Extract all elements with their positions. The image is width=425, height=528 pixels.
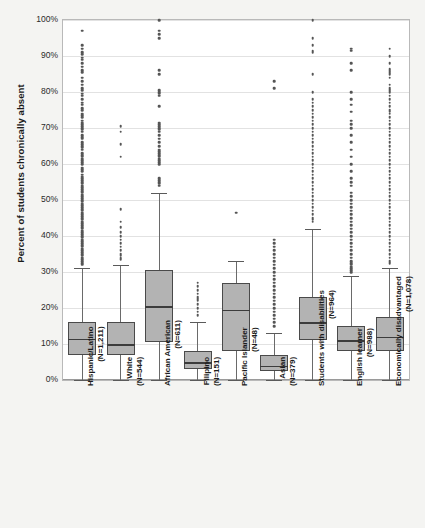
x-axis-labels: Hispanic/Latino(N=1,211)White(N=544)Afri… xyxy=(62,386,410,526)
outlier-point xyxy=(312,44,315,47)
outlier-point xyxy=(81,94,84,97)
outlier-point xyxy=(388,224,391,227)
outlier-point xyxy=(81,71,84,74)
outlier-point xyxy=(388,156,391,159)
outlier-point xyxy=(350,134,353,137)
whisker-cap xyxy=(266,333,282,334)
outlier-point xyxy=(350,202,353,205)
outlier-point xyxy=(388,238,391,241)
outlier-point xyxy=(81,53,84,56)
y-tick-label: 50% xyxy=(24,194,58,204)
x-tick-label: African American(N=611) xyxy=(163,320,183,386)
outlier-point xyxy=(273,238,276,241)
x-tick-label: English learner(N=988) xyxy=(355,328,375,386)
outlier-point xyxy=(312,148,315,151)
outlier-point xyxy=(158,141,161,144)
outlier-point xyxy=(388,181,391,184)
outlier-point xyxy=(273,289,276,292)
outlier-point xyxy=(312,134,315,137)
outlier-point xyxy=(273,296,276,299)
outlier-point xyxy=(388,256,391,259)
outlier-point xyxy=(119,156,122,159)
outlier-point xyxy=(350,69,353,72)
outlier-point xyxy=(119,238,122,241)
gridline xyxy=(63,200,409,201)
outlier-point xyxy=(312,163,315,166)
outlier-point xyxy=(388,94,391,97)
outlier-point xyxy=(81,66,84,69)
outlier-point xyxy=(81,62,84,65)
outlier-point xyxy=(196,292,199,295)
outlier-point xyxy=(312,112,315,115)
outlier-point xyxy=(388,127,391,130)
outlier-point xyxy=(312,170,315,173)
x-category-count: (N=151) xyxy=(212,357,222,386)
x-category-count: (N=544) xyxy=(135,357,145,386)
outlier-point xyxy=(350,213,353,216)
outlier-point xyxy=(158,138,161,141)
outlier-point xyxy=(388,134,391,137)
outlier-point xyxy=(388,213,391,216)
x-category-count: (N=1,078) xyxy=(404,276,414,386)
outlier-point xyxy=(388,148,391,151)
outlier-point xyxy=(350,148,353,151)
whisker-cap xyxy=(113,265,129,266)
outlier-point xyxy=(119,220,122,223)
whisker-cap xyxy=(343,276,359,277)
y-tick-label: 60% xyxy=(24,158,58,168)
outlier-point xyxy=(350,120,353,123)
outlier-point xyxy=(350,246,353,249)
outlier-point xyxy=(196,289,199,292)
outlier-point xyxy=(350,123,353,126)
outlier-point xyxy=(312,19,315,22)
outlier-point xyxy=(388,206,391,209)
outlier-point xyxy=(312,130,315,133)
outlier-point xyxy=(312,98,315,101)
outlier-point xyxy=(81,76,84,79)
outlier-point xyxy=(158,73,161,76)
median-line xyxy=(107,344,135,346)
outlier-point xyxy=(273,282,276,285)
outlier-point xyxy=(81,89,84,92)
outlier-point xyxy=(350,228,353,231)
outlier-point xyxy=(388,220,391,223)
outlier-point xyxy=(119,235,122,238)
outlier-point xyxy=(81,103,84,106)
x-tick-label: Economically disadvantaged(N=1,078) xyxy=(394,276,414,386)
outlier-point xyxy=(158,69,161,72)
y-tick-label: 70% xyxy=(24,122,58,132)
outlier-point xyxy=(312,109,315,112)
outlier-point xyxy=(119,258,122,261)
outlier-point xyxy=(312,202,315,205)
outlier-point xyxy=(388,210,391,213)
outlier-point xyxy=(81,264,84,267)
x-category-name: Students with disabilities xyxy=(317,290,327,386)
outlier-point xyxy=(388,130,391,133)
x-category-count: (N=611) xyxy=(173,320,183,386)
outlier-point xyxy=(119,246,122,249)
outlier-point xyxy=(388,105,391,108)
outlier-point xyxy=(312,166,315,169)
outlier-point xyxy=(388,163,391,166)
outlier-point xyxy=(388,228,391,231)
outlier-point xyxy=(388,48,391,51)
outlier-point xyxy=(158,37,161,40)
outlier-point xyxy=(273,314,276,317)
outlier-point xyxy=(388,152,391,155)
plot-area xyxy=(62,19,410,381)
outlier-point xyxy=(196,310,199,313)
outlier-point xyxy=(81,138,84,141)
x-tick-label: Asian(N=379) xyxy=(278,357,298,386)
median-line xyxy=(145,306,173,308)
outlier-point xyxy=(158,145,161,148)
x-category-count: (N=48) xyxy=(250,327,260,386)
y-tick-label: 80% xyxy=(24,86,58,96)
outlier-point xyxy=(273,87,276,90)
outlier-point xyxy=(388,73,391,76)
outlier-point xyxy=(273,325,276,328)
gridline xyxy=(63,92,409,93)
outlier-point xyxy=(388,141,391,144)
x-category-count: (N=379) xyxy=(288,357,298,386)
outlier-point xyxy=(273,321,276,324)
y-tick-label: 90% xyxy=(24,50,58,60)
